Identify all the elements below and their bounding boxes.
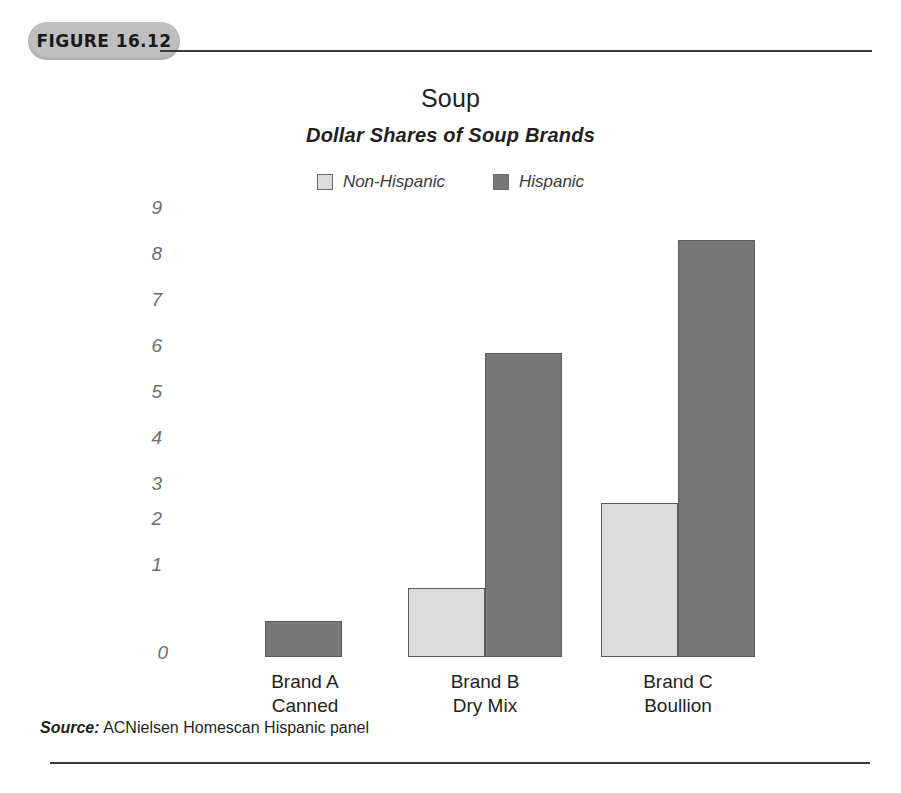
legend-label-hispanic: Hispanic: [519, 172, 584, 192]
bar-brand-b-non-hispanic: [408, 588, 485, 657]
legend-label-non-hispanic: Non-Hispanic: [343, 172, 445, 192]
figure-number-badge: FIGURE 16.12: [28, 22, 180, 60]
legend-item-non-hispanic: Non-Hispanic: [317, 172, 445, 192]
x-axis-label-brand-b: Brand B Dry Mix: [395, 670, 575, 718]
plot-area: 9 8 7 6 5 4 3 2 1 0 Brand A Canned Brand…: [0, 0, 901, 793]
chart-title: Soup: [0, 84, 901, 113]
x-axis-label-brand-a: Brand A Canned: [215, 670, 395, 718]
bar-brand-c-non-hispanic: [601, 503, 678, 657]
figure-number-label: FIGURE 16.12: [37, 31, 172, 51]
x-axis-label-line2: Boullion: [588, 694, 768, 718]
chart-subtitle: Dollar Shares of Soup Brands: [0, 124, 901, 147]
header-divider: [160, 50, 872, 52]
y-tick-label: 5: [126, 381, 162, 403]
y-tick-label: 8: [126, 243, 162, 265]
legend-item-hispanic: Hispanic: [493, 172, 584, 192]
y-tick-label: 7: [126, 289, 162, 311]
chart-legend: Non-Hispanic Hispanic: [0, 172, 901, 192]
y-tick-label: 0: [132, 642, 168, 664]
bar-brand-b-hispanic: [485, 353, 562, 657]
figure-header: FIGURE 16.12: [0, 22, 901, 62]
y-tick-label: 2: [126, 508, 162, 530]
y-tick-label: 6: [126, 335, 162, 357]
footer-divider: [50, 762, 870, 764]
x-axis-label-line1: Brand C: [643, 671, 713, 692]
x-axis-label-line1: Brand B: [451, 671, 520, 692]
source-keyword: Source:: [40, 719, 100, 736]
y-tick-label: 3: [126, 473, 162, 495]
bar-brand-a-hispanic: [265, 621, 342, 657]
y-tick-label: 1: [126, 554, 162, 576]
x-axis-label-brand-c: Brand C Boullion: [588, 670, 768, 718]
legend-swatch-icon: [493, 174, 509, 190]
y-tick-label: 9: [126, 197, 162, 219]
source-note: Source: ACNielsen Homescan Hispanic pane…: [40, 719, 369, 737]
x-axis-label-line2: Dry Mix: [395, 694, 575, 718]
legend-swatch-icon: [317, 174, 333, 190]
bar-brand-c-hispanic: [678, 240, 755, 657]
y-tick-label: 4: [126, 427, 162, 449]
x-axis-label-line2: Canned: [215, 694, 395, 718]
x-axis-label-line1: Brand A: [271, 671, 339, 692]
source-text: ACNielsen Homescan Hispanic panel: [100, 719, 369, 736]
